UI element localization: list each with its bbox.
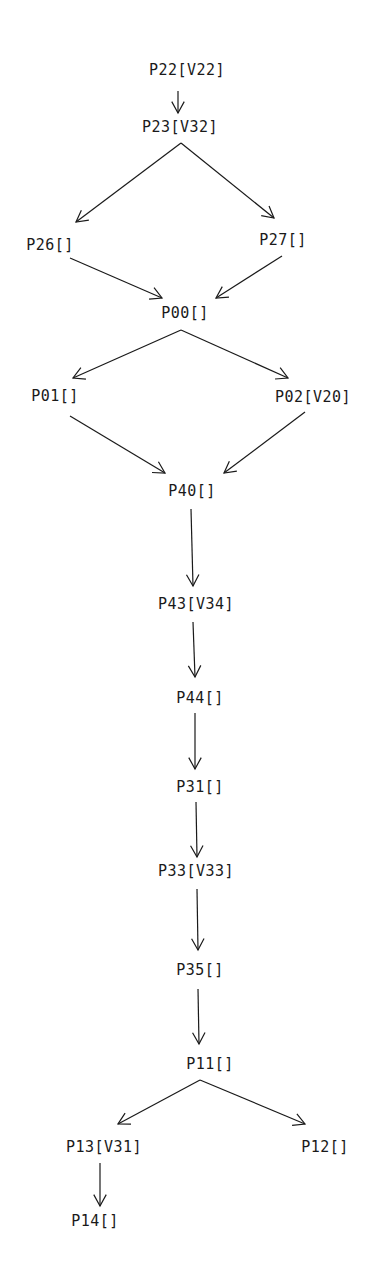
edge-p00-to-p02 — [181, 330, 288, 379]
edge-p27-to-p00 — [216, 256, 282, 298]
edge-p11-to-p13 — [118, 1080, 200, 1124]
edge-p00-to-p01 — [73, 330, 181, 379]
edge-layer — [0, 0, 383, 1283]
edge-p22-to-p23 — [172, 91, 184, 113]
node-p26: P26[] — [26, 236, 74, 254]
edge-p13-to-p14 — [94, 1163, 106, 1206]
edge-p23-to-p26 — [76, 143, 181, 222]
edge-p31-to-p33 — [191, 802, 203, 857]
edge-p26-to-p00 — [70, 258, 162, 299]
edge-p01-to-p40 — [70, 416, 165, 473]
node-p33: P33[V33] — [158, 862, 234, 880]
node-p02: P02[V20] — [275, 388, 351, 406]
node-p11: P11[] — [186, 1055, 234, 1073]
node-p13: P13[V31] — [66, 1138, 142, 1156]
edge-p44-to-p31 — [189, 713, 201, 769]
node-p22: P22[V22] — [149, 61, 225, 79]
flow-diagram: P22[V22]P23[V32]P26[]P27[]P00[]P01[]P02[… — [0, 0, 383, 1283]
node-p23: P23[V32] — [142, 118, 218, 136]
node-p35: P35[] — [176, 961, 224, 979]
node-p01: P01[] — [31, 387, 79, 405]
edge-p11-to-p12 — [200, 1080, 305, 1125]
node-p40: P40[] — [168, 482, 216, 500]
edge-p02-to-p40 — [224, 412, 305, 473]
edge-p43-to-p44 — [188, 622, 200, 677]
node-p27: P27[] — [259, 231, 307, 249]
edge-p23-to-p27 — [181, 143, 274, 218]
node-p43: P43[V34] — [158, 595, 234, 613]
edge-p40-to-p43 — [186, 509, 198, 586]
node-p00: P00[] — [161, 304, 209, 322]
node-p44: P44[] — [176, 689, 224, 707]
edge-p35-to-p11 — [193, 989, 205, 1044]
edge-p33-to-p35 — [192, 889, 204, 950]
node-p14: P14[] — [71, 1212, 119, 1230]
node-p12: P12[] — [301, 1138, 349, 1156]
node-p31: P31[] — [176, 778, 224, 796]
